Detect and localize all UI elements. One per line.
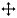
move-cursor[interactable]: [0, 0, 17, 18]
move-arrows-icon: [0, 0, 17, 18]
